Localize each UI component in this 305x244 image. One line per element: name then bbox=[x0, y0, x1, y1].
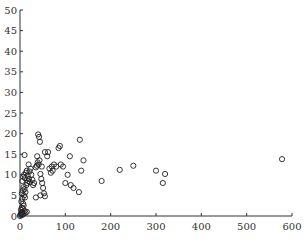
y-tick-label: 5 bbox=[11, 190, 17, 201]
data-point bbox=[65, 172, 70, 177]
data-point bbox=[37, 139, 42, 144]
y-tick-label: 35 bbox=[4, 66, 17, 77]
y-tick-label: 50 bbox=[4, 5, 17, 16]
y-tick-label: 0 bbox=[11, 211, 17, 222]
y-tick-label: 15 bbox=[4, 149, 17, 160]
data-point bbox=[162, 171, 167, 176]
x-tick-label: 0 bbox=[17, 221, 23, 232]
x-tick-label: 500 bbox=[237, 221, 256, 232]
data-point bbox=[79, 168, 84, 173]
data-points bbox=[17, 132, 284, 219]
y-tick-label: 20 bbox=[4, 128, 17, 139]
data-point bbox=[67, 154, 72, 159]
data-point bbox=[160, 180, 165, 185]
x-tick-label: 600 bbox=[282, 221, 301, 232]
data-point bbox=[35, 154, 40, 159]
y-tick-label: 45 bbox=[4, 25, 17, 36]
data-point bbox=[38, 171, 43, 176]
y-tick-label: 30 bbox=[4, 87, 17, 98]
data-point bbox=[99, 178, 104, 183]
x-tick-label: 300 bbox=[146, 221, 165, 232]
data-point bbox=[81, 158, 86, 163]
x-tick-label: 400 bbox=[192, 221, 211, 232]
y-tick-label: 25 bbox=[4, 108, 17, 119]
x-tick-label: 200 bbox=[101, 221, 120, 232]
data-point bbox=[117, 167, 122, 172]
data-point bbox=[22, 152, 27, 157]
axes bbox=[20, 10, 292, 216]
y-tick-label: 40 bbox=[4, 46, 17, 57]
data-point bbox=[279, 157, 284, 162]
data-point bbox=[76, 190, 81, 195]
data-point bbox=[131, 163, 136, 168]
scatter-chart: 05101520253035404550 0100200300400500600 bbox=[0, 0, 305, 244]
data-point bbox=[41, 185, 46, 190]
data-point bbox=[63, 180, 68, 185]
data-point bbox=[77, 137, 82, 142]
data-point bbox=[153, 168, 158, 173]
y-tick-label: 10 bbox=[4, 169, 17, 180]
x-tick-label: 100 bbox=[56, 221, 75, 232]
data-point bbox=[42, 150, 47, 155]
